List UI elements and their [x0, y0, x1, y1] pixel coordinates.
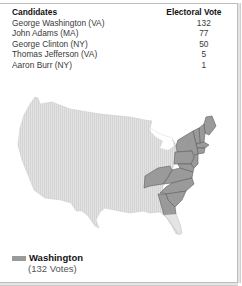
candidate-name: Aaron Burr (NY) — [12, 60, 186, 71]
legend-votes: (132 Votes) — [28, 263, 77, 274]
state-connecticut — [197, 148, 205, 154]
header-electoral-vote: Electoral Vote — [166, 7, 221, 18]
table-row: Aaron Burr (NY) 1 — [12, 60, 221, 71]
us-landmass — [18, 97, 180, 234]
legend-label: Washington — [29, 252, 83, 263]
legend-swatch — [12, 256, 26, 261]
state-maine — [204, 116, 216, 135]
candidate-votes: 1 — [186, 60, 221, 71]
electoral-vote-table: Candidates Electoral Vote George Washing… — [12, 7, 221, 71]
table-header: Candidates Electoral Vote — [12, 7, 221, 18]
state-florida — [164, 214, 182, 235]
us-map — [0, 90, 242, 240]
header-candidates: Candidates — [12, 7, 166, 18]
state-pennsylvania — [174, 151, 194, 164]
